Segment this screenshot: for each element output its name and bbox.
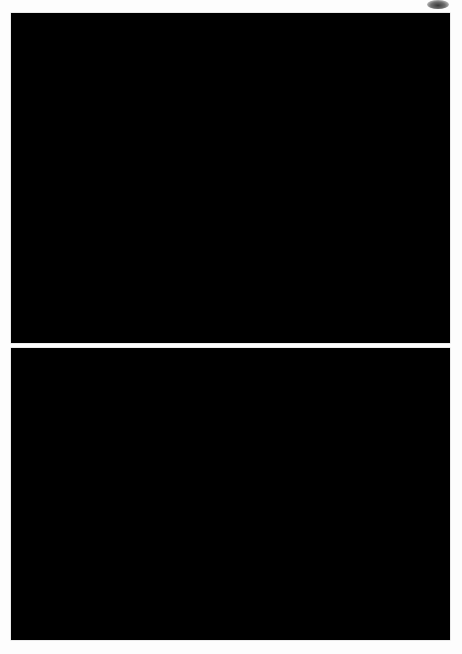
panel-a	[11, 13, 450, 343]
panel-a-image	[11, 13, 450, 343]
scan-smudge-artifact	[427, 0, 449, 9]
panel-b	[11, 348, 450, 640]
panel-b-image	[11, 348, 450, 640]
figure-container	[0, 0, 462, 654]
